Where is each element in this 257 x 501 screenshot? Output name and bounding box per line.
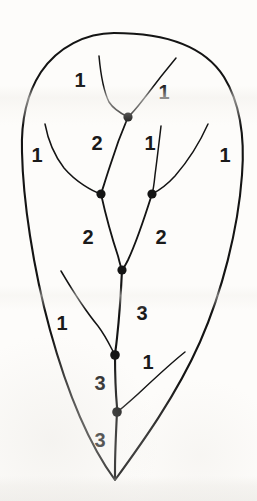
drainage-basin-boundary <box>22 33 243 480</box>
order-label-2-lower-right: 2 <box>155 227 166 247</box>
channel-order1-top-left <box>99 56 128 117</box>
order-label-2-lower-left: 2 <box>82 227 93 247</box>
order-label-1-top-right: 1 <box>158 82 169 102</box>
junction-node-lower-bottom <box>112 407 122 417</box>
channel-order2-left-upper <box>101 117 128 194</box>
order-label-1-inner-right: 1 <box>144 133 155 153</box>
basin-outline <box>22 33 243 480</box>
order-label-1-top-left: 1 <box>74 70 85 90</box>
order-label-3-middle: 3 <box>94 373 105 393</box>
channel-order2-right-lower <box>122 194 152 270</box>
channel-order1-lower-left-tributary <box>61 271 115 355</box>
order-label-3-outlet: 3 <box>94 430 105 450</box>
order-label-3-upper: 3 <box>136 303 147 323</box>
channel-order3-outlet <box>115 412 117 480</box>
order-label-1-far-right: 1 <box>219 145 230 165</box>
channel-order3-upper <box>115 270 122 355</box>
junction-node-top <box>123 112 132 121</box>
order-label-1-mid-right: 1 <box>142 352 153 372</box>
stream-order-figure: 1121112231133 <box>0 0 257 501</box>
junction-node-mid-right <box>147 189 156 198</box>
junction-node-mid-left <box>96 189 105 198</box>
junction-node-lower-upper <box>110 350 120 360</box>
diagram-canvas <box>0 0 257 501</box>
order-label-2-upper-left: 2 <box>91 133 102 153</box>
order-label-1-mid-left: 1 <box>56 313 67 333</box>
junction-node-center <box>117 265 126 274</box>
order-label-1-far-left: 1 <box>31 145 42 165</box>
channel-order2-left-lower <box>101 194 122 270</box>
channel-order3-middle <box>115 355 117 412</box>
